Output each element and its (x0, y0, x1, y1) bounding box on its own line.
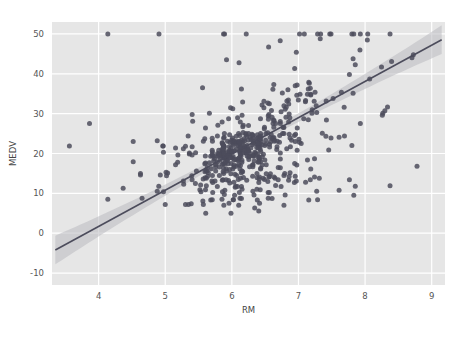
data-point (237, 140, 242, 145)
data-point (315, 197, 320, 202)
data-point (256, 159, 261, 164)
data-point (287, 115, 292, 120)
data-point (233, 184, 238, 189)
data-point (270, 87, 275, 92)
data-point (158, 173, 163, 178)
data-point (238, 120, 243, 125)
data-point (256, 208, 261, 213)
data-point (295, 126, 300, 131)
data-point (237, 133, 242, 138)
data-point (223, 160, 228, 165)
data-point (239, 196, 244, 201)
data-point (256, 145, 261, 150)
data-point (221, 203, 226, 208)
data-point (246, 149, 251, 154)
data-point (246, 155, 251, 160)
data-point (365, 31, 370, 36)
data-point (239, 158, 244, 163)
data-point (203, 211, 208, 216)
data-point (197, 187, 202, 192)
data-point (351, 91, 356, 96)
data-point (244, 178, 249, 183)
data-point (207, 111, 212, 116)
data-point (305, 157, 310, 162)
data-point (258, 116, 263, 121)
data-point (326, 147, 331, 152)
y-axis-title: MEDV (8, 141, 18, 166)
data-point (193, 181, 198, 186)
data-point (308, 177, 313, 182)
data-point (131, 139, 136, 144)
x-tick-label: 9 (429, 291, 434, 301)
data-point (306, 198, 311, 203)
data-point (186, 133, 191, 138)
data-point (140, 196, 145, 201)
data-point (388, 31, 393, 36)
data-point (293, 83, 298, 88)
data-point (239, 86, 244, 91)
data-point (337, 188, 342, 193)
scatter-plot-figure: 456789-1001020304050RMMEDV (0, 0, 465, 337)
data-point (285, 87, 290, 92)
data-point (87, 121, 92, 126)
data-point (173, 162, 178, 167)
data-point (202, 136, 207, 141)
data-point (232, 157, 237, 162)
data-point (258, 167, 263, 172)
data-point (296, 98, 301, 103)
data-point (221, 31, 226, 36)
data-point (240, 113, 245, 118)
data-point (175, 153, 180, 158)
data-point (327, 31, 332, 36)
data-point (266, 175, 271, 180)
data-point (198, 182, 203, 187)
data-point (278, 151, 283, 156)
data-point (294, 50, 299, 55)
data-point (221, 147, 226, 152)
data-point (258, 131, 263, 136)
x-tick-label: 4 (96, 291, 101, 301)
data-point (105, 31, 110, 36)
data-point (221, 171, 226, 176)
data-point (301, 116, 306, 121)
data-point (224, 57, 229, 62)
data-point (190, 144, 195, 149)
data-point (351, 193, 356, 198)
data-point (213, 169, 218, 174)
data-point (240, 124, 245, 129)
data-point (270, 196, 275, 201)
data-point (271, 82, 276, 87)
data-point (358, 31, 363, 36)
data-point (353, 184, 358, 189)
x-tick-label: 6 (229, 291, 234, 301)
data-point (246, 131, 251, 136)
data-point (161, 143, 166, 148)
data-point (318, 31, 323, 36)
data-point (278, 165, 283, 170)
data-point (275, 144, 280, 149)
data-point (230, 106, 235, 111)
data-point (266, 117, 271, 122)
data-point (155, 138, 160, 143)
data-point (337, 135, 342, 140)
data-point (308, 86, 313, 91)
data-point (227, 180, 232, 185)
x-tick-label: 7 (296, 291, 301, 301)
data-point (292, 180, 297, 185)
y-tick-label: 10 (33, 188, 44, 198)
data-point (415, 164, 420, 169)
data-point (190, 119, 195, 124)
data-point (379, 65, 384, 70)
data-point (213, 164, 218, 169)
data-point (228, 171, 233, 176)
data-point (252, 206, 257, 211)
data-point (250, 153, 255, 158)
data-point (264, 162, 269, 167)
data-point (226, 116, 231, 121)
data-point (389, 59, 394, 64)
data-point (292, 66, 297, 71)
data-point (163, 202, 168, 207)
y-tick-label: -10 (30, 268, 44, 278)
data-point (238, 176, 243, 181)
data-point (215, 133, 220, 138)
